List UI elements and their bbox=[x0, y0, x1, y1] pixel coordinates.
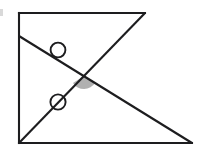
geometry-figure bbox=[0, 0, 210, 159]
upper-tick-circle bbox=[51, 43, 66, 58]
figure-canvas bbox=[0, 0, 210, 159]
diagonal-ascending bbox=[19, 13, 145, 143]
diagonal-descending bbox=[19, 36, 192, 143]
